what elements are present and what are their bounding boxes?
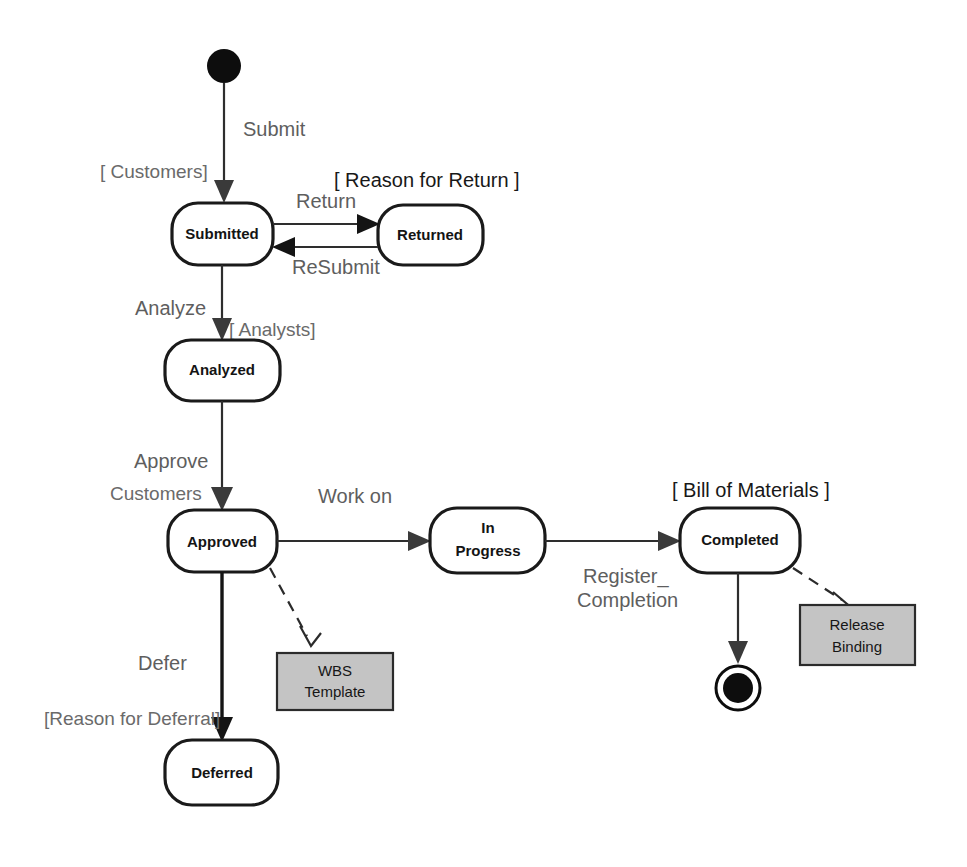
note-release-binding[interactable] <box>800 605 915 665</box>
transition-submit-arrowhead <box>214 180 234 203</box>
state-returned-label: Returned <box>397 226 463 243</box>
transition-approve-arrowhead <box>211 487 233 511</box>
initial-state-node <box>207 49 241 83</box>
uml-state-diagram: Submit [ Customers] Submitted Returned R… <box>0 0 967 867</box>
dependency-wbs-template-arrowhead <box>300 626 321 646</box>
transition-register-completion-label-line2: Completion <box>577 589 678 611</box>
transition-register-completion-arrowhead <box>658 531 681 551</box>
state-approved-label: Approved <box>187 533 257 550</box>
final-state-node <box>723 673 753 703</box>
transition-return-label: Return <box>296 190 356 212</box>
transition-workon-arrowhead <box>408 531 431 551</box>
note-wbs-template-line1: WBS <box>318 662 352 679</box>
transition-submit-label: Submit <box>243 118 306 140</box>
state-deferred-label: Deferred <box>191 764 253 781</box>
transition-resubmit-label: ReSubmit <box>292 256 380 278</box>
transition-approve-guard: Customers <box>110 483 202 504</box>
state-in-progress-label-line1: In <box>481 519 494 536</box>
note-release-binding-line1: Release <box>829 616 884 633</box>
transition-approve-label: Approve <box>134 450 209 472</box>
transition-defer-guard: [Reason for Deferral] <box>44 708 220 729</box>
state-analyzed-label: Analyzed <box>189 361 255 378</box>
state-completed-label: Completed <box>701 531 779 548</box>
transition-defer-label: Defer <box>138 652 187 674</box>
diagram-canvas: Submit [ Customers] Submitted Returned R… <box>0 0 967 867</box>
state-in-progress[interactable] <box>430 508 545 573</box>
transition-register-completion-label-line1: Register_ <box>583 565 669 588</box>
state-submitted-label: Submitted <box>185 225 258 242</box>
transition-return-guard: [ Reason for Return ] <box>334 169 520 191</box>
dependency-release-binding-line <box>793 568 842 600</box>
transition-workon-label: Work on <box>318 485 392 507</box>
transition-to-final-arrowhead <box>728 641 748 664</box>
note-wbs-template-line2: Template <box>305 683 366 700</box>
transition-register-completion-guard: [ Bill of Materials ] <box>672 479 830 501</box>
transition-resubmit-arrowhead <box>272 237 295 257</box>
note-release-binding-line2: Binding <box>832 638 882 655</box>
transition-analyze-label: Analyze <box>135 297 206 319</box>
state-in-progress-label-line2: Progress <box>455 542 520 559</box>
transition-submit-guard: [ Customers] <box>100 161 208 182</box>
transition-analyze-guard: [ Analysts] <box>229 319 316 340</box>
dependency-wbs-template-line <box>270 568 307 636</box>
